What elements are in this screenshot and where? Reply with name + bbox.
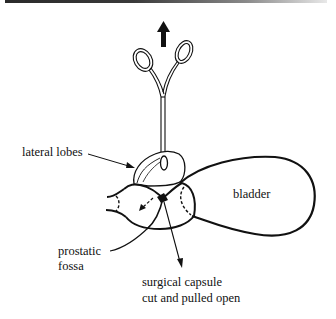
forceps-icon bbox=[129, 38, 196, 170]
fossa-dashed-arrow bbox=[139, 198, 153, 211]
label-lateral-lobes: lateral lobes bbox=[22, 145, 83, 160]
prostatic-fossa-pointer bbox=[110, 226, 150, 251]
label-prostatic-fossa-1: prostatic bbox=[58, 244, 101, 259]
pull-up-arrow-icon bbox=[157, 21, 170, 47]
lateral-lobes-shape bbox=[134, 151, 185, 186]
label-surgical-capsule-2: cut and pulled open bbox=[142, 291, 240, 306]
label-bladder: bladder bbox=[233, 187, 270, 202]
lateral-lobes-pointer bbox=[88, 154, 135, 168]
surgical-capsule-pointer bbox=[164, 202, 183, 268]
label-prostatic-fossa-2: fossa bbox=[58, 259, 84, 274]
label-surgical-capsule-1: surgical capsule bbox=[142, 275, 222, 290]
